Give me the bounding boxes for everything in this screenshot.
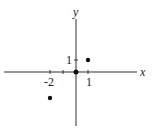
x-tick-label-1: 1	[86, 75, 92, 89]
point-origin	[74, 70, 79, 75]
y-axis-label: y	[72, 5, 79, 19]
y-tick-label-1: 1	[66, 53, 72, 67]
point-neg2-neg2	[48, 96, 52, 100]
x-tick-label-neg2: -2	[44, 75, 54, 89]
x-axis-label: x	[139, 65, 146, 79]
coordinate-plane: y x -2 1 1	[0, 0, 153, 129]
point-1-1	[86, 58, 90, 62]
